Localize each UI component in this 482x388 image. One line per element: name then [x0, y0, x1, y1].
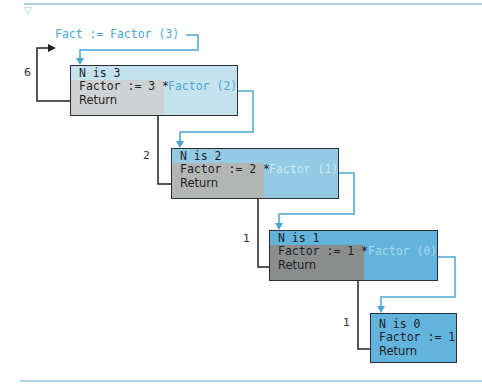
activation-box-3: N is 1 Factor := 1 * Factor (0) Return: [269, 230, 438, 281]
arrowhead-2: [176, 141, 184, 148]
recursive-call-2: Factor (1): [269, 163, 338, 176]
activation-box-1: N is 3 Factor := 3 * Factor (2) Return: [70, 65, 238, 116]
factor-line-2: Factor := 2 *: [180, 163, 270, 176]
return-value-3: 1: [243, 232, 250, 245]
factor-line-1: Factor := 3 *: [79, 80, 169, 93]
return-line-label-3: Return: [278, 259, 316, 272]
return-arrowhead-1: [48, 44, 56, 52]
activation-box-4: N is 0 Factor := 1 Return: [370, 313, 457, 363]
return-line-4: [358, 269, 370, 349]
triangle-marker-icon: ▽: [24, 5, 32, 16]
factor-line-4: Factor := 1: [379, 331, 455, 344]
initial-call-expression: Factor (3): [110, 28, 179, 41]
arrowhead-3: [275, 223, 283, 230]
return-line-label-2: Return: [180, 177, 218, 190]
initial-call-lhs: Fact :=: [55, 28, 103, 41]
return-line-label-1: Return: [79, 94, 117, 107]
arrowhead-1: [76, 58, 84, 65]
activation-box-2: N is 2 Factor := 2 * Factor (1) Return: [171, 148, 339, 199]
return-value-4: 1: [343, 316, 350, 329]
return-line-1: [37, 48, 70, 101]
return-value-2: 2: [143, 149, 150, 162]
recursive-call-1: Factor (2): [168, 80, 237, 93]
return-line-2: [158, 104, 171, 184]
recursive-call-3: Factor (0): [368, 245, 437, 258]
arrowhead-4: [377, 306, 385, 313]
return-value-1: 6: [24, 66, 31, 79]
factor-line-3: Factor := 1 *: [278, 245, 368, 258]
return-line-label-4: Return: [379, 345, 417, 358]
